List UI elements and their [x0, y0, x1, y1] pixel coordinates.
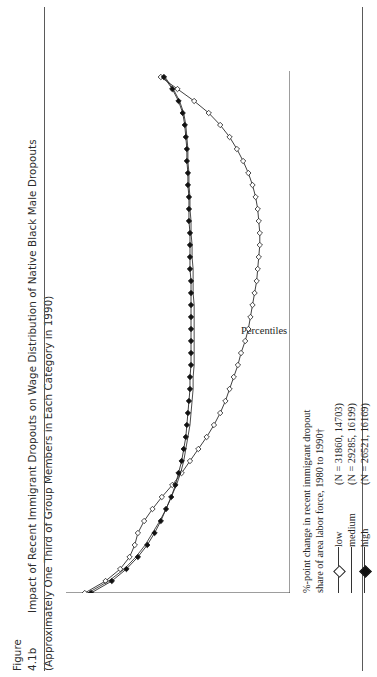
- legend-header-line-1: %-point change in recent immigrant dropo…: [300, 163, 313, 593]
- series-line-medium: [88, 77, 194, 593]
- series-marker-high: [188, 314, 193, 319]
- caption-line-1: Impact of Recent Immigrant Dropouts on W…: [26, 139, 38, 613]
- series-marker-high: [186, 206, 191, 211]
- series-marker-high: [187, 386, 192, 391]
- series-marker-low: [255, 266, 260, 271]
- series-marker-high: [184, 146, 189, 151]
- series-marker-high: [188, 302, 193, 307]
- series-marker-low: [223, 398, 228, 403]
- legend-n-high: (N = 26521, 16169): [359, 403, 370, 485]
- figure-caption: Figure 4.1bImpact of Recent Immigrant Dr…: [10, 71, 56, 671]
- series-marker-low: [240, 158, 245, 163]
- series-marker-high: [187, 266, 192, 271]
- series-marker-low: [187, 458, 192, 463]
- legend-item-medium: medium (N = 29285, 16199): [345, 163, 358, 593]
- series-marker-high: [163, 506, 168, 511]
- series-marker-low: [82, 590, 87, 593]
- caption-divider-top: [44, 7, 45, 671]
- series-marker-high: [188, 362, 193, 367]
- series-marker-high: [169, 494, 174, 499]
- chart-legend: %-point change in recent immigrant dropo…: [300, 163, 371, 593]
- series-marker-low: [250, 182, 255, 187]
- chart-plot-area: 10152025303540455055606570758085900.060.…: [60, 65, 290, 593]
- legend-label-medium: medium: [346, 485, 357, 547]
- series-marker-high: [185, 410, 190, 415]
- figure-page: Figure 4.1bImpact of Recent Immigrant Dr…: [0, 0, 377, 677]
- legend-item-high: high (N = 26521, 16169): [358, 163, 371, 593]
- series-marker-low: [257, 242, 262, 247]
- series-marker-high: [183, 134, 188, 139]
- series-marker-low: [252, 290, 257, 295]
- series-marker-high: [185, 170, 190, 175]
- series-marker-high: [188, 350, 193, 355]
- series-marker-low: [246, 170, 251, 175]
- series-marker-high: [187, 374, 192, 379]
- series-marker-low: [211, 422, 216, 427]
- legend-label-low: low: [333, 485, 344, 547]
- series-marker-high: [188, 326, 193, 331]
- chart-canvas: 10152025303540455055606570758085900.060.…: [60, 65, 290, 593]
- series-marker-high: [186, 194, 191, 199]
- legend-header: %-point change in recent immigrant dropo…: [300, 163, 326, 593]
- series-marker-low: [135, 530, 140, 535]
- series-marker-low: [253, 194, 258, 199]
- series-marker-low: [132, 542, 137, 547]
- series-marker-low: [256, 218, 261, 223]
- legend-n-medium: (N = 29285, 16199): [346, 403, 357, 485]
- series-marker-low: [235, 362, 240, 367]
- series-marker-low: [238, 350, 243, 355]
- series-marker-low: [218, 410, 223, 415]
- series-marker-high: [187, 230, 192, 235]
- series-line-low: [85, 77, 260, 593]
- series-marker-high: [152, 530, 157, 535]
- legend-item-low: low (N = 31860, 14703): [332, 163, 345, 593]
- series-marker-high: [184, 158, 189, 163]
- series-marker-low: [257, 230, 262, 235]
- series-marker-low: [234, 146, 239, 151]
- series-marker-low: [248, 314, 253, 319]
- series-marker-high: [185, 182, 190, 187]
- series-marker-low: [227, 386, 232, 391]
- rotated-figure-content: Figure 4.1bImpact of Recent Immigrant Dr…: [0, 0, 377, 677]
- legend-label-high: high: [359, 485, 370, 547]
- series-marker-low: [255, 206, 260, 211]
- series-marker-low: [256, 254, 261, 259]
- series-marker-low: [196, 446, 201, 451]
- series-marker-low: [204, 434, 209, 439]
- series-marker-high: [184, 422, 189, 427]
- series-marker-low: [243, 338, 248, 343]
- series-marker-low: [231, 374, 236, 379]
- series-marker-low: [254, 278, 259, 283]
- series-marker-high: [188, 338, 193, 343]
- series-line-high: [91, 77, 191, 593]
- series-marker-high: [186, 398, 191, 403]
- legend-header-line-2: share of area labor force, 1980 to 1990†: [313, 163, 326, 593]
- series-marker-high: [182, 122, 187, 127]
- figure-number: Figure 4.1b: [10, 613, 40, 671]
- legend-marker-open-diamond-icon: [332, 547, 345, 593]
- series-marker-high: [180, 110, 185, 115]
- series-marker-low: [250, 302, 255, 307]
- legend-marker-filled-diamond-icon: [358, 547, 371, 593]
- series-marker-low: [141, 518, 146, 523]
- legend-n-low: (N = 31860, 14703): [333, 403, 344, 485]
- legend-marker-line-icon: [345, 547, 358, 593]
